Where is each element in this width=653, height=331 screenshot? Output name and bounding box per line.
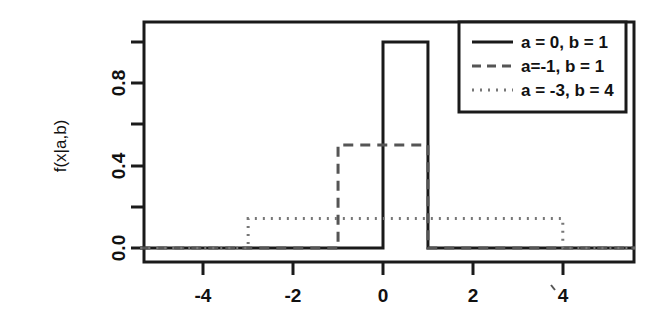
y-axis-title: f(x|a,b) bbox=[51, 120, 70, 173]
y-tick-label-2: 0.8 bbox=[108, 70, 129, 96]
y-tick-label-1: 0.4 bbox=[108, 152, 129, 179]
legend: a = 0, b = 1 a=-1, b = 1 a = -3, b = 4 bbox=[459, 22, 626, 112]
y-axis-ticks bbox=[131, 42, 144, 248]
legend-label-1: a=-1, b = 1 bbox=[521, 57, 604, 76]
series-line-1 bbox=[140, 145, 634, 248]
x-tick-label-1: -2 bbox=[285, 285, 302, 306]
scan-artifact-mark bbox=[551, 285, 555, 290]
chart-figure: 0.0 0.4 0.8 f(x|a,b) -4 -2 0 2 4 a = 0, … bbox=[0, 0, 653, 331]
uniform-distribution-plot: 0.0 0.4 0.8 f(x|a,b) -4 -2 0 2 4 a = 0, … bbox=[0, 0, 653, 331]
x-tick-label-4: 4 bbox=[558, 285, 569, 306]
y-tick-label-0: 0.0 bbox=[108, 235, 129, 261]
x-axis-ticks bbox=[203, 262, 563, 275]
legend-label-0: a = 0, b = 1 bbox=[521, 33, 608, 52]
x-tick-label-3: 2 bbox=[468, 285, 479, 306]
x-tick-label-2: 0 bbox=[378, 285, 389, 306]
x-tick-label-0: -4 bbox=[195, 285, 212, 306]
legend-label-2: a = -3, b = 4 bbox=[521, 81, 614, 100]
series-line-2 bbox=[140, 219, 634, 248]
